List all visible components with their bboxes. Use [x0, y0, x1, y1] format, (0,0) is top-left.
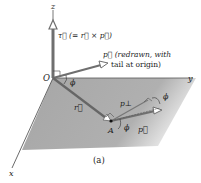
- point-a-label: A: [107, 126, 114, 135]
- torque-diagram: z y x O τ⃗ (= r⃗ × p⃗) p⃗ (redrawn, with…: [0, 0, 201, 183]
- figure-caption: (a): [93, 155, 105, 165]
- y-axis-label: y: [187, 74, 193, 83]
- p-label: p⃗: [138, 125, 148, 134]
- phi-label-origin: ϕ: [70, 78, 76, 87]
- point-a: [109, 119, 112, 122]
- torque-arrowhead-icon: [49, 20, 57, 29]
- p-perp-label: p⊥: [120, 99, 132, 108]
- origin-label: O: [43, 73, 50, 83]
- p-redrawn-label-1: p⃗ (redrawn, with: [103, 50, 171, 59]
- p-redrawn-arrowhead-icon: [99, 61, 108, 68]
- r-label: r⃗: [74, 103, 83, 112]
- torque-label: τ⃗ (= r⃗ × p⃗): [58, 31, 112, 40]
- phi-label-a: ϕ: [124, 123, 130, 132]
- z-axis-label: z: [50, 2, 56, 11]
- phi-label-tip: ϕ: [163, 92, 169, 101]
- p-redrawn-label-2: tail at origin): [111, 60, 161, 69]
- x-axis-label: x: [9, 169, 14, 178]
